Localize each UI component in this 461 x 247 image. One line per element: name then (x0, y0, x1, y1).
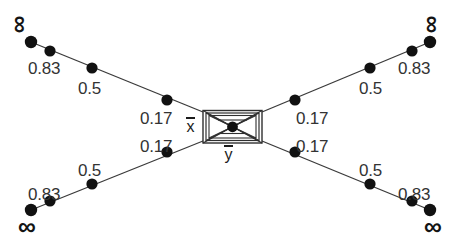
value-label-ur-017: 0.17 (296, 110, 328, 127)
infinity-label-lower-left: ∞ (18, 214, 36, 239)
value-label-ll-05: 0.5 (78, 162, 101, 179)
value-label-ul-05: 0.5 (78, 80, 101, 97)
infinity-label-lower-right: ∞ (424, 214, 442, 239)
value-label-ul-017: 0.17 (140, 110, 172, 127)
value-label-ul-083: 0.83 (28, 60, 60, 77)
value-label-lr-05: 0.5 (359, 162, 382, 179)
x-mean-glyph: x (186, 119, 195, 135)
value-label-ll-083: 0.83 (28, 186, 60, 203)
node-lr-05 (364, 178, 375, 189)
value-label-lr-083: 0.83 (398, 186, 430, 203)
node-center (227, 121, 238, 132)
x-mean-label: x (186, 117, 195, 135)
value-label-lr-017: 0.17 (296, 138, 328, 155)
node-ur-017 (289, 94, 300, 105)
node-ul-083 (44, 45, 55, 56)
diagram-canvas: ∞ ∞ ∞ ∞ 0.83 0.5 0.17 0.83 0.5 0.17 0.17… (0, 0, 461, 247)
y-mean-label: y (224, 145, 233, 163)
node-ur-05 (364, 62, 375, 73)
diagram-vector-layer (0, 0, 461, 247)
value-label-ur-05: 0.5 (359, 80, 382, 97)
value-label-ur-083: 0.83 (398, 60, 430, 77)
node-ul-infinity (25, 36, 37, 48)
infinity-label-upper-right: ∞ (420, 16, 445, 34)
node-ll-05 (86, 178, 97, 189)
value-label-ll-017: 0.17 (140, 138, 172, 155)
node-ur-infinity (424, 36, 436, 48)
node-ul-017 (161, 94, 172, 105)
node-ur-083 (406, 45, 417, 56)
node-ul-05 (86, 62, 97, 73)
y-mean-glyph: y (224, 147, 233, 163)
infinity-label-upper-left: ∞ (8, 16, 33, 34)
arm-nodes (25, 36, 436, 216)
